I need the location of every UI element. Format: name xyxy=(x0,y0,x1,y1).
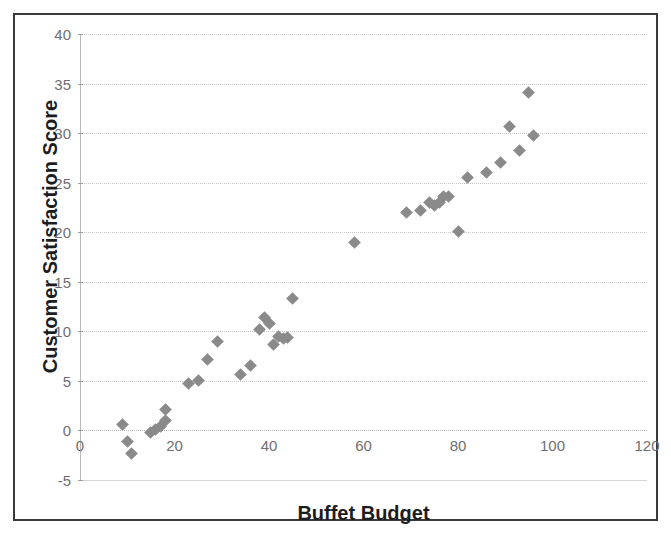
scatter-point xyxy=(286,292,299,305)
gridline-y-15 xyxy=(80,282,647,283)
y-axis-title: Customer Satisfaction Score xyxy=(39,37,62,437)
scatter-point xyxy=(513,145,526,158)
x-axis-label-120: 120 xyxy=(634,437,659,454)
gridline-y-30 xyxy=(80,133,647,134)
scatter-point xyxy=(234,369,247,382)
y-axis-line xyxy=(80,34,81,480)
y-tick-40 xyxy=(78,34,83,35)
x-axis-label-100: 100 xyxy=(540,437,565,454)
scatter-point xyxy=(400,206,413,219)
y-tick-25 xyxy=(78,183,83,184)
scatter-point xyxy=(244,359,257,372)
scatter-point xyxy=(192,375,205,388)
scatter-point xyxy=(211,335,224,348)
y-tick-10 xyxy=(78,331,83,332)
scatter-point xyxy=(121,435,134,448)
y-axis-label-5: 5 xyxy=(63,372,71,389)
gridline-y-35 xyxy=(80,84,647,85)
gridline-y-0 xyxy=(80,430,647,431)
x-axis-label-40: 40 xyxy=(261,437,278,454)
gridline-y-20 xyxy=(80,232,647,233)
y-tick-30 xyxy=(78,133,83,134)
gridline-y--5 xyxy=(80,480,647,481)
y-tick-0 xyxy=(78,430,83,431)
x-axis-label-60: 60 xyxy=(355,437,372,454)
chart-frame: -50510152025303540 020406080100120 Buffe… xyxy=(13,13,658,521)
scatter-point xyxy=(523,86,536,99)
x-axis-label-80: 80 xyxy=(450,437,467,454)
gridline-y-25 xyxy=(80,183,647,184)
scatter-point xyxy=(452,225,465,238)
scatter-point xyxy=(116,418,129,431)
x-axis-title: Buffet Budget xyxy=(80,502,647,525)
y-axis-label-0: 0 xyxy=(63,422,71,439)
x-axis-label-20: 20 xyxy=(166,437,183,454)
scatter-point xyxy=(504,120,517,133)
y-tick-15 xyxy=(78,282,83,283)
scatter-point xyxy=(414,204,427,217)
scatter-point xyxy=(527,129,540,142)
scatter-point xyxy=(348,236,361,249)
scatter-point xyxy=(480,166,493,179)
x-axis-label-0: 0 xyxy=(76,437,84,454)
gridline-y-40 xyxy=(80,34,647,35)
scatter-point xyxy=(159,403,172,416)
y-axis-label--5: -5 xyxy=(58,472,71,489)
y-tick--5 xyxy=(78,480,83,481)
scatter-point xyxy=(494,156,507,169)
scatter-point xyxy=(201,353,214,366)
plot-area: -50510152025303540 020406080100120 xyxy=(80,34,647,480)
clipped-caption-text xyxy=(0,0,671,4)
y-tick-20 xyxy=(78,232,83,233)
y-tick-35 xyxy=(78,84,83,85)
scatter-point xyxy=(126,447,139,460)
gridline-y-5 xyxy=(80,381,647,382)
y-tick-5 xyxy=(78,381,83,382)
gridline-y-10 xyxy=(80,331,647,332)
